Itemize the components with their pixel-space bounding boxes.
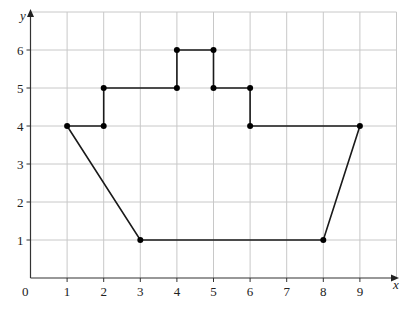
y-tick-label: 3 [17,157,24,172]
vertex-point [247,123,253,129]
x-tick-label: 9 [357,284,364,299]
vertex-point [211,47,217,53]
y-tick-label: 2 [17,195,24,210]
y-tick-label: 5 [17,81,24,96]
x-axis-label: x [392,277,399,292]
origin-label: 0 [22,284,29,299]
vertex-point [174,85,180,91]
coordinate-grid-chart: x y 0 123456789123456 [0,0,410,312]
y-axis-arrow-icon [27,9,34,17]
x-tick-label: 3 [137,284,144,299]
vertex-point [101,123,107,129]
vertex-point [101,85,107,91]
vertex-point [247,85,253,91]
x-tick-label: 4 [174,284,181,299]
tick-labels: 123456789123456 [17,43,363,300]
vertex-point [320,237,326,243]
x-tick-label: 5 [210,284,217,299]
y-tick-label: 1 [17,233,24,248]
x-tick-label: 8 [320,284,327,299]
y-tick-label: 6 [17,43,24,58]
vertex-point [64,123,70,129]
y-axis-label: y [18,8,26,23]
x-tick-label: 2 [100,284,107,299]
x-tick-label: 7 [283,284,290,299]
vertex-point [211,85,217,91]
x-tick-label: 6 [247,284,254,299]
axes: x y 0 [18,8,399,299]
y-tick-label: 4 [17,119,24,134]
vertex-point [174,47,180,53]
vertex-point [137,237,143,243]
vertex-point [357,123,363,129]
x-tick-label: 1 [64,284,71,299]
